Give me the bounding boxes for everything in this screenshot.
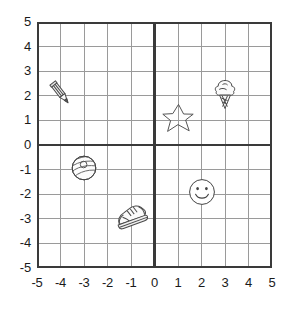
x-tick-label: -1 (118, 276, 144, 289)
x-tick-label: 0 (142, 276, 168, 289)
y-tick-label: 1 (5, 113, 31, 126)
x-tick-label: 2 (189, 276, 215, 289)
y-tick-label: -4 (5, 236, 31, 249)
coordinate-plane-worksheet: 5 4 3 2 1 0 -1 -2 -3 -4 -5 -5 -4 -3 -2 -… (0, 0, 292, 318)
x-tick-label: -4 (48, 276, 74, 289)
y-tick-label: 0 (5, 138, 31, 151)
x-tick-label: 5 (259, 276, 285, 289)
y-tick-label: 3 (5, 64, 31, 77)
y-tick-label: 4 (5, 40, 31, 53)
y-tick-label: -5 (5, 261, 31, 274)
y-tick-label: -2 (5, 187, 31, 200)
x-tick-label: 1 (165, 276, 191, 289)
main-axes (37, 22, 272, 268)
x-tick-label: 3 (212, 276, 238, 289)
coordinate-plane (37, 22, 272, 268)
y-tick-label: 2 (5, 89, 31, 102)
x-tick-label: 4 (236, 276, 262, 289)
y-tick-label: -1 (5, 163, 31, 176)
y-tick-label: 5 (5, 15, 31, 28)
x-tick-label: -3 (71, 276, 97, 289)
x-tick-label: -5 (24, 276, 50, 289)
y-tick-label: -3 (5, 212, 31, 225)
x-tick-label: -2 (95, 276, 121, 289)
grid-and-axes (37, 22, 272, 268)
